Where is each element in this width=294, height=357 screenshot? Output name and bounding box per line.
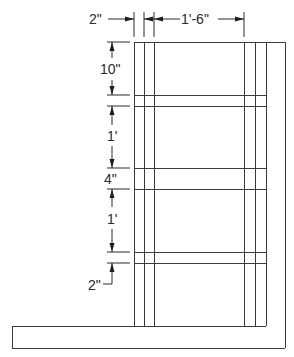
arrow-right-icon: [125, 17, 134, 22]
arrow-left-icon: [154, 17, 163, 22]
dim-label-1ft-upper: 1': [107, 128, 117, 144]
technical-drawing: 2" 1'-6" 10" 1' 4" 1' 2": [0, 0, 294, 357]
base-slab: [12, 326, 285, 348]
arrow-down-icon: [110, 159, 115, 168]
arrow-left-icon: [144, 17, 153, 22]
arrow-up-icon: [110, 42, 115, 51]
dim-label-1ft-lower: 1': [107, 211, 117, 227]
dim-label-10in: 10": [100, 61, 121, 77]
dim-label-top-right: 1'-6": [181, 11, 209, 27]
left-dimensions: 10" 1' 4" 1' 2": [88, 42, 130, 293]
arrow-up-icon: [110, 106, 115, 115]
top-dimensions: 2" 1'-6": [89, 11, 244, 37]
frame-structure: [134, 42, 285, 348]
dim-label-top-left: 2": [89, 11, 102, 27]
arrow-right-icon: [235, 17, 244, 22]
arrow-down-icon: [110, 243, 115, 252]
arrow-down-icon: [110, 86, 115, 95]
dim-label-4in: 4": [104, 171, 117, 187]
dim-label-2in-bottom: 2": [88, 277, 101, 293]
arrow-up-icon: [110, 189, 115, 198]
arrow-up-icon: [110, 263, 115, 272]
